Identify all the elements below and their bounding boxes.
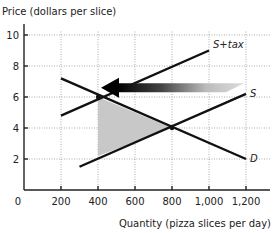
y-tick-label-2: 2 [13, 154, 19, 165]
origin-label: 0 [15, 196, 21, 207]
supply-shift-arrow-shaft [117, 83, 244, 92]
curve-label-d: D [250, 153, 258, 164]
x-tick-label-600: 600 [125, 196, 144, 207]
y-tick-label-10: 10 [6, 30, 19, 41]
x-tick-label-400: 400 [88, 196, 107, 207]
arrow-layer [101, 78, 244, 98]
y-tick-label-4: 4 [13, 123, 19, 134]
equilibrium-point-1 [96, 95, 100, 99]
grid [24, 30, 270, 190]
equilibrium-point-2 [170, 126, 174, 130]
x-tick-label-1200: 1,200 [232, 196, 261, 207]
y-tick-label-6: 6 [13, 92, 19, 103]
curve-s-tax [61, 51, 209, 116]
curve-label-s: S [250, 88, 257, 99]
curve-label-s-tax: S+tax [213, 39, 244, 50]
chart: 2004006008001,0001,2002468100Price (doll… [0, 0, 273, 233]
y-tick-label-8: 8 [13, 61, 19, 72]
y-axis-title: Price (dollars per slice) [2, 6, 116, 17]
x-tick-label-1000: 1,000 [195, 196, 224, 207]
x-axis-title: Quantity (pizza slices per day) [119, 218, 271, 229]
x-tick-label-800: 800 [162, 196, 181, 207]
x-tick-label-200: 200 [51, 196, 70, 207]
curves [61, 51, 246, 167]
